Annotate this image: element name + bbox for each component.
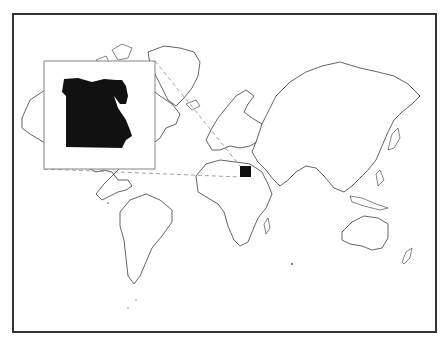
island-dot [107, 202, 109, 204]
world-map [0, 0, 448, 345]
south-america [120, 194, 172, 284]
egypt-highlight[interactable] [240, 166, 251, 177]
asia [252, 62, 420, 192]
philippines [376, 170, 384, 186]
australia [342, 216, 388, 250]
island-dot [291, 263, 293, 265]
new-zealand [402, 248, 412, 264]
japan [388, 128, 400, 150]
island-dot [135, 299, 136, 300]
island-dot [127, 307, 128, 308]
madagascar [264, 218, 270, 234]
indonesia [350, 196, 388, 210]
africa [196, 160, 272, 246]
